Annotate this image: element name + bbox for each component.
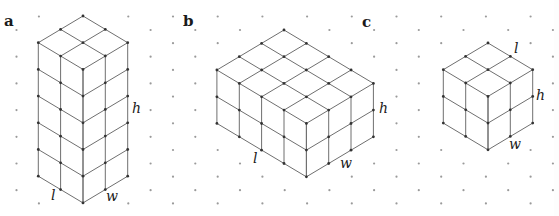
cube-vertex <box>37 68 40 71</box>
grid-dot <box>172 122 174 124</box>
cube-vertex <box>327 55 330 58</box>
grid-dot <box>462 162 464 164</box>
grid-dot <box>15 109 17 111</box>
grid-dot <box>150 136 152 138</box>
cube-vertex <box>464 82 467 85</box>
grid-dot <box>172 176 174 178</box>
cube-vertex <box>260 95 263 98</box>
cube-vertex <box>283 29 286 32</box>
cube-vertex <box>487 68 490 71</box>
cube-edge <box>239 43 306 83</box>
grid-dot <box>38 202 40 204</box>
cube-vertex <box>305 69 308 72</box>
grid-dot <box>485 15 487 17</box>
grid-dot <box>194 109 196 111</box>
cube-vertex <box>238 109 241 112</box>
grid-dot <box>261 202 263 204</box>
grid-dot <box>395 202 397 204</box>
grid-dot <box>395 149 397 151</box>
cube-vertex <box>350 95 353 98</box>
cube-vertex <box>372 135 375 138</box>
cube-vertex <box>238 135 241 138</box>
grid-dot <box>373 189 375 191</box>
cube-edge <box>306 110 373 150</box>
cube-vertex <box>509 108 512 111</box>
cube-vertex <box>283 135 286 138</box>
cube-vertex <box>305 122 308 125</box>
grid-dot <box>395 122 397 124</box>
grid-dot <box>440 149 442 151</box>
grid-dot <box>485 176 487 178</box>
cube-vertex <box>283 109 286 112</box>
cube-vertex <box>238 55 241 58</box>
grid-dot <box>418 56 420 58</box>
cube-vertex <box>487 122 490 125</box>
label-a-height: h <box>132 101 141 115</box>
grid-dot <box>15 56 17 58</box>
cube-vertex <box>464 55 467 58</box>
grid-dot <box>351 202 353 204</box>
cube-vertex <box>327 109 330 112</box>
grid-dot <box>239 29 241 31</box>
grid-dot <box>440 202 442 204</box>
label-c-width: w <box>509 137 521 151</box>
cube-vertex <box>372 109 375 112</box>
grid-dot <box>485 202 487 204</box>
prism-a <box>37 15 129 205</box>
cube-edge <box>217 30 284 70</box>
cube-vertex <box>327 135 330 138</box>
cube-edge <box>262 57 329 97</box>
cube-vertex <box>126 175 129 178</box>
cube-vertex <box>531 122 534 125</box>
grid-dot <box>507 29 509 31</box>
cube-vertex <box>104 81 107 84</box>
cube-vertex <box>126 41 129 44</box>
grid-dot <box>217 176 219 178</box>
cube-vertex <box>82 121 85 124</box>
cube-vertex <box>442 122 445 125</box>
grid-dot <box>418 29 420 31</box>
cube-vertex <box>37 148 40 151</box>
cube-vertex <box>104 108 107 111</box>
cube-vertex <box>104 28 107 31</box>
grid-dot <box>373 162 375 164</box>
cube-vertex <box>305 42 308 45</box>
cube-vertex <box>82 68 85 71</box>
grid-dot <box>150 56 152 58</box>
cube-vertex <box>350 122 353 125</box>
grid-dot <box>172 96 174 98</box>
cube-vertex <box>82 95 85 98</box>
grid-dot <box>328 29 330 31</box>
grid-dot <box>194 82 196 84</box>
cube-vertex <box>372 82 375 85</box>
grid-dot <box>172 69 174 71</box>
cube-vertex <box>260 149 263 152</box>
cube-vertex <box>104 161 107 164</box>
grid-dot <box>217 149 219 151</box>
cube-vertex <box>327 162 330 165</box>
grid-dot <box>462 189 464 191</box>
label-a-length: l <box>51 188 55 202</box>
grid-dot <box>127 202 129 204</box>
cube-vertex <box>59 81 62 84</box>
grid-dot <box>172 202 174 204</box>
cube-vertex <box>531 95 534 98</box>
grid-dot <box>194 189 196 191</box>
grid-dot <box>530 15 532 17</box>
grid-dot <box>351 15 353 17</box>
grid-dot <box>217 15 219 17</box>
grid-dot <box>150 189 152 191</box>
label-b-width: w <box>340 156 352 170</box>
cube-vertex <box>305 149 308 152</box>
cube-vertex <box>82 41 85 44</box>
grid-dot <box>15 162 17 164</box>
cube-vertex <box>283 82 286 85</box>
cube-vertex <box>37 95 40 98</box>
cube-vertex <box>350 149 353 152</box>
cube-vertex <box>37 175 40 178</box>
grid-dot <box>530 149 532 151</box>
cube-vertex <box>37 41 40 44</box>
cube-vertex <box>59 28 62 31</box>
grid-dot <box>351 42 353 44</box>
grid-dot <box>440 176 442 178</box>
